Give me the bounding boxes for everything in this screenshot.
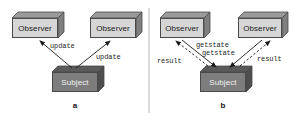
node-face: Observer <box>238 18 282 38</box>
node-observer-left-a: Observer <box>12 12 58 38</box>
node-subject-b: Subject <box>200 66 246 92</box>
observer-pattern-diagram: Observer Observer Subject update update … <box>0 0 300 122</box>
edge-label-update-left: update <box>50 42 75 50</box>
node-label: Subject <box>61 78 88 87</box>
node-face: Subject <box>52 72 98 92</box>
node-label: Observer <box>165 24 199 33</box>
node-label: Observer <box>18 24 52 33</box>
node-observer-right-b: Observer <box>238 12 282 38</box>
node-face: Observer <box>160 18 204 38</box>
node-label: Observer <box>96 24 130 33</box>
panel-caption-a: a <box>58 101 92 110</box>
edge-label-result-right: result <box>257 55 282 63</box>
node-observer-right-a: Observer <box>90 12 136 38</box>
edge-label-getstate-left: getstate <box>196 41 229 49</box>
edge-label-update-right: update <box>96 53 121 61</box>
node-face: Observer <box>90 18 136 38</box>
node-label: Subject <box>209 78 236 87</box>
node-face: Observer <box>12 18 58 38</box>
edge-label-result-left: result <box>157 57 182 65</box>
node-face: Subject <box>200 72 246 92</box>
node-label: Observer <box>243 24 277 33</box>
node-observer-left-b: Observer <box>160 12 204 38</box>
edge-label-getstate-right: getstate <box>202 49 235 57</box>
panel-caption-b: b <box>206 101 240 110</box>
node-subject-a: Subject <box>52 66 98 92</box>
